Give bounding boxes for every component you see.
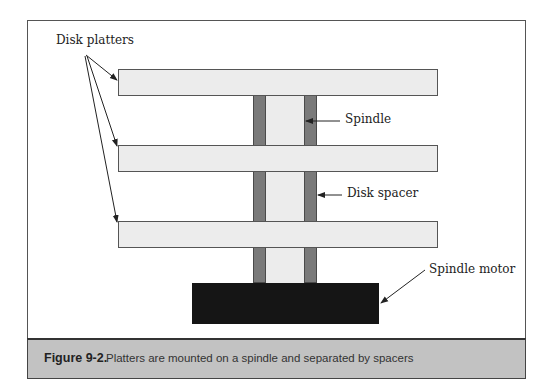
spindle-right-spacer [304,95,317,283]
disk-spacer-label: Disk spacer [347,186,418,200]
disk-platter-2 [118,145,438,172]
spindle-core [266,95,304,283]
figure-number: Figure 9-2. [44,351,107,365]
disk-platter-1 [118,69,438,96]
caption-text: Platters are mounted on a spindle and se… [106,352,414,364]
spindle-left-spacer [253,95,266,283]
disk-platters-label: Disk platters [56,33,134,47]
disk-platter-3 [118,221,438,248]
spindle-motor-label: Spindle motor [429,262,515,276]
figure-caption: Figure 9-2. Platters are mounted on a sp… [27,338,526,379]
spindle-label: Spindle [345,112,391,126]
spindle-motor [192,283,379,324]
